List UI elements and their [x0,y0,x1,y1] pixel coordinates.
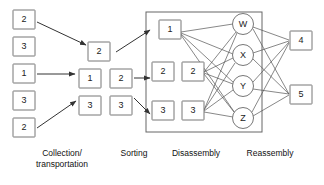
stage-label-collection-line2: transportation [36,159,88,169]
collection-box-4[interactable]: 3 [13,91,35,110]
reassembly-box-4-label: 4 [298,35,303,45]
component-circle-w-label: W [239,19,248,29]
collection-box-2[interactable]: 3 [13,37,35,56]
edge-component-circle-z-to-reassembly-box-5 [253,95,289,116]
collection-box-2-label: 3 [21,41,26,51]
diagram-canvas: 23132 21233 12233 WXYZ 45 Collection/tra… [0,0,324,185]
edge-component-circle-y-to-reassembly-box-5 [253,89,289,94]
reassembly-boxes-group: 45 [290,31,312,104]
stage-label-disassembly: Disassembly [172,148,221,158]
sorting-box-top-label: 2 [96,46,101,56]
collection-boxes-group: 23132 [13,10,35,137]
component-circle-x[interactable]: X [233,45,254,66]
disassembly-box-2b[interactable]: 2 [182,62,204,81]
arrow-collection-top [37,22,86,45]
stage-label-reassembly: Reassembly [247,148,295,158]
sorting-box-top[interactable]: 2 [88,42,110,61]
component-circle-w[interactable]: W [233,14,254,35]
process-flow-diagram: 23132 21233 12233 WXYZ 45 Collection/tra… [0,0,324,185]
disassembly-box-1[interactable]: 1 [159,20,181,39]
component-circle-x-label: X [240,50,246,60]
collection-box-5-label: 2 [21,122,26,132]
disassembly-box-3b[interactable]: 3 [182,101,204,120]
sorting-box-bot-left[interactable]: 3 [79,96,101,115]
disassembly-box-1-label: 1 [167,24,172,34]
edge-component-circle-z-to-reassembly-box-4 [252,43,289,112]
collection-box-4-label: 3 [21,95,26,105]
edge-component-circle-x-to-reassembly-box-4 [253,41,289,53]
component-circles-group: WXYZ [233,14,254,129]
disassembly-box-3a[interactable]: 3 [152,101,174,120]
edge-disassembly-box-2b-to-component-circle-z [204,74,234,112]
component-circle-y[interactable]: Y [233,76,254,97]
reassembly-box-5-label: 5 [298,89,303,99]
sorting-box-mid-right-label: 2 [118,73,123,83]
edge-disassembly-box-2b-to-component-circle-x [204,58,233,72]
disassembly-box-3b-label: 3 [190,105,195,115]
disassembly-boxes-group: 12233 [152,20,204,120]
sorting-box-mid-left[interactable]: 1 [79,69,101,88]
sorting-boxes-group: 21233 [79,42,132,115]
stage-labels-group: Collection/transportationSortingDisassem… [36,148,294,169]
arrow-sorting-top [116,30,150,52]
sorting-box-bot-right[interactable]: 3 [110,96,132,115]
collection-box-3-label: 1 [21,68,26,78]
component-circle-z-label: Z [240,113,246,123]
disassembly-box-2a-label: 2 [160,66,165,76]
edge-disassembly-box-1-to-component-circle-x [181,33,233,54]
component-to-reassembly-edges [252,27,289,116]
sorting-box-bot-left-label: 3 [87,100,92,110]
reassembly-box-5[interactable]: 5 [290,85,312,104]
collection-box-3[interactable]: 1 [13,64,35,83]
stage-label-sorting: Sorting [121,148,148,158]
edge-disassembly-box-1-to-component-circle-w [181,24,233,32]
stage-label-collection: Collection/ [42,148,82,158]
collection-box-1-label: 2 [21,14,26,24]
sorting-box-mid-left-label: 1 [87,73,92,83]
sorting-box-mid-right[interactable]: 2 [110,69,132,88]
edge-disassembly-box-3b-to-component-circle-z [204,112,233,117]
component-circle-z[interactable]: Z [233,108,254,129]
disassembly-box-3a-label: 3 [160,105,165,115]
arrow-sorting-bot [134,98,150,114]
disassembly-box-2b-label: 2 [190,66,195,76]
arrow-collection-bot [37,101,76,128]
sorting-box-bot-right-label: 3 [118,100,123,110]
collection-box-1[interactable]: 2 [13,10,35,29]
disassembly-box-2a[interactable]: 2 [152,62,174,81]
edge-disassembly-box-2b-to-component-circle-w [204,32,236,72]
component-circle-y-label: Y [240,81,246,91]
collection-box-5[interactable]: 2 [13,118,35,137]
reassembly-box-4[interactable]: 4 [290,31,312,50]
